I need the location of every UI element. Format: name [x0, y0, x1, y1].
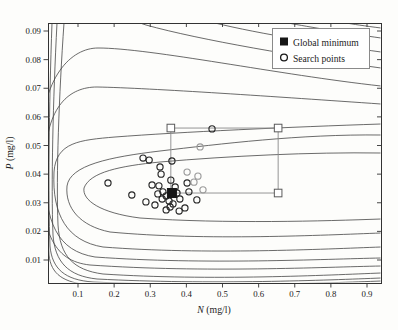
contour-plot-figure: 0.10.20.30.40.50.60.70.80.90.010.020.030… [0, 0, 398, 330]
search-point [156, 183, 162, 189]
search-point [177, 196, 183, 202]
search-point-shaded [200, 187, 206, 193]
search-point [152, 202, 158, 208]
y-axis-variable: P [4, 163, 15, 170]
y-tick-label: 0.03 [26, 198, 42, 208]
search-point [158, 171, 164, 177]
search-point [184, 180, 190, 186]
y-tick-label: 0.01 [26, 255, 41, 265]
region-corner-handle [274, 189, 282, 197]
search-point [186, 189, 192, 195]
search-region [167, 124, 282, 197]
y-tick-label: 0.09 [26, 26, 42, 36]
global-minimum-marker [167, 189, 176, 198]
region-corner-handle [274, 124, 282, 132]
x-tick-label: 0.3 [145, 289, 157, 299]
x-axis-unit: (mg/l) [204, 304, 231, 316]
search-point [182, 205, 188, 211]
x-tick-label: 0.5 [217, 289, 229, 299]
contour-line [54, 124, 381, 251]
filled-square-icon [280, 38, 288, 46]
region-corner-handle [167, 124, 175, 132]
search-point [146, 157, 152, 163]
y-tick-label: 0.07 [26, 83, 42, 93]
x-axis-label: N (mg/l) [196, 304, 230, 316]
contour-line [84, 153, 381, 222]
search-point-shaded [184, 169, 190, 175]
legend-label-search-points: Search points [293, 53, 345, 64]
y-axis-label: P (mg/l) [4, 137, 16, 171]
search-point [105, 180, 111, 186]
x-tick-label: 0.8 [325, 289, 337, 299]
search-point [140, 155, 146, 161]
search-point [149, 182, 155, 188]
search-point [176, 208, 182, 214]
search-point-shaded [191, 179, 197, 185]
search-point-shaded [195, 173, 201, 179]
y-tick-label: 0.04 [26, 169, 42, 179]
x-tick-label: 0.1 [73, 289, 84, 299]
legend: Global minimum Search points [273, 29, 370, 69]
search-point [157, 164, 163, 170]
y-tick-label: 0.05 [26, 141, 42, 151]
y-axis-unit: (mg/l) [4, 137, 16, 164]
legend-label-global-minimum: Global minimum [293, 37, 359, 48]
y-tick-label: 0.06 [26, 112, 42, 122]
search-point [194, 197, 200, 203]
x-tick-label: 0.6 [253, 289, 265, 299]
y-tick-label: 0.08 [26, 55, 42, 65]
chart-canvas: 0.10.20.30.40.50.60.70.80.90.010.020.030… [0, 0, 398, 330]
search-point [129, 192, 135, 198]
scatter-points [105, 126, 215, 214]
search-point [143, 199, 149, 205]
x-tick-label: 0.9 [362, 289, 374, 299]
x-tick-label: 0.7 [289, 289, 301, 299]
x-tick-label: 0.4 [181, 289, 193, 299]
y-tick-label: 0.02 [26, 226, 41, 236]
contour-line [40, 48, 381, 269]
search-region-outline [171, 128, 278, 193]
x-tick-label: 0.2 [109, 289, 120, 299]
